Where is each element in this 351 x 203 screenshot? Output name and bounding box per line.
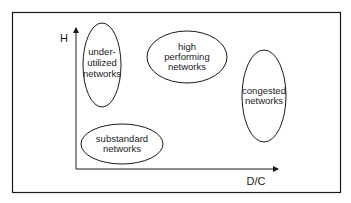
label-line: networks bbox=[103, 143, 141, 154]
region-congested: congested networks bbox=[242, 50, 286, 142]
y-axis-label: H bbox=[60, 32, 68, 44]
network-performance-diagram: H D/C under- utilized networks high perf… bbox=[0, 0, 351, 203]
region-high-performing: high performing networks bbox=[147, 31, 227, 83]
label-line: networks bbox=[83, 68, 121, 79]
label-line: networks bbox=[168, 61, 206, 72]
label-line: networks bbox=[245, 95, 283, 106]
x-axis-label: D/C bbox=[247, 175, 266, 187]
region-under-utilized: under- utilized networks bbox=[83, 23, 121, 107]
label-line: under- bbox=[88, 46, 115, 57]
label-line: utilized bbox=[87, 57, 117, 68]
region-substandard: substandard networks bbox=[81, 124, 163, 164]
